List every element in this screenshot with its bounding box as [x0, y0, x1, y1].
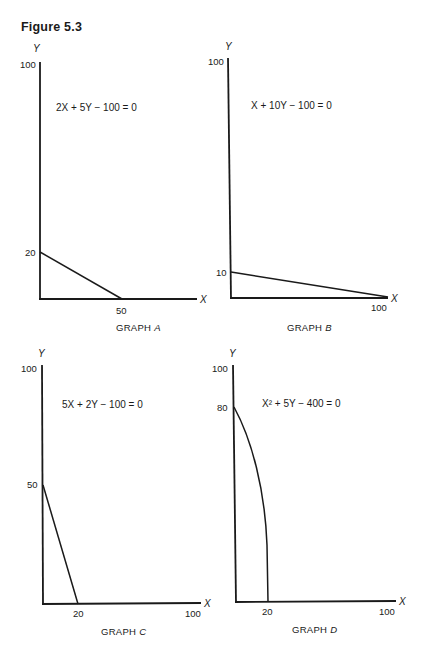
- y-tick-top: 100: [20, 59, 36, 70]
- x-axis: [235, 601, 396, 602]
- y-axis-label: Y: [225, 41, 233, 52]
- y-intercept-tick: 20: [25, 247, 36, 258]
- y-intercept-tick: 50: [27, 479, 38, 490]
- equation: X + 10Y − 100 = 0: [251, 100, 332, 111]
- graph-caption: GRAPH C: [101, 626, 146, 637]
- y-intercept-tick: 80: [217, 402, 228, 413]
- x-intercept-tick: 20: [73, 608, 84, 619]
- y-axis-label: Y: [38, 348, 46, 359]
- graph-caption: GRAPH A: [116, 322, 161, 333]
- x-axis-label: X: [390, 293, 398, 304]
- graph-d: Y 100 X 80 20 100 X² + 5Y − 400 = 0 GRAP…: [212, 348, 406, 635]
- x-axis-label: X: [398, 596, 406, 607]
- y-axis: [233, 365, 236, 603]
- constraint-line: [43, 485, 78, 604]
- equation: X² + 5Y − 400 = 0: [262, 398, 341, 409]
- y-tick-top: 100: [212, 363, 228, 374]
- x-axis: [42, 603, 201, 604]
- x-max-tick: 100: [185, 608, 201, 619]
- constraint-line: [231, 272, 388, 297]
- constraint-line: [40, 252, 122, 299]
- graph-caption: GRAPH D: [292, 624, 337, 635]
- y-tick-top: 100: [21, 363, 37, 374]
- graph-a: Y 100 X 20 50 2X + 5Y − 100 = 0 GRAPH A: [20, 43, 207, 333]
- graph-b: Y 100 X 10 100 X + 10Y − 100 = 0 GRAPH B: [208, 41, 398, 333]
- y-tick-top: 100: [208, 56, 224, 67]
- y-axis-label: Y: [229, 348, 237, 359]
- graph-c: Y 100 X 50 20 100 5X + 2Y − 100 = 0 GRAP…: [21, 348, 211, 637]
- equation: 5X + 2Y − 100 = 0: [62, 399, 143, 410]
- y-axis: [42, 365, 43, 605]
- y-axis-label: Y: [33, 43, 41, 54]
- x-axis-label: X: [203, 598, 211, 609]
- equation: 2X + 5Y − 100 = 0: [56, 102, 137, 113]
- figure-canvas: Y 100 X 20 50 2X + 5Y − 100 = 0 GRAPH A …: [0, 0, 425, 665]
- graph-caption: GRAPH B: [287, 322, 332, 333]
- x-intercept-tick: 100: [371, 302, 387, 313]
- y-intercept-tick: 10: [216, 267, 227, 278]
- x-intercept-tick: 50: [116, 305, 127, 316]
- x-max-tick: 100: [379, 606, 395, 617]
- x-intercept-tick: 20: [262, 606, 273, 617]
- x-axis-label: X: [199, 294, 207, 305]
- y-axis: [228, 58, 231, 299]
- constraint-curve: [234, 407, 268, 602]
